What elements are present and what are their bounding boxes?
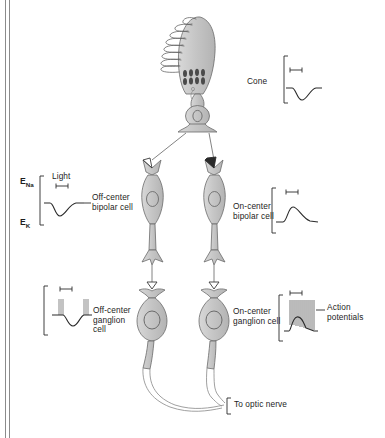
off-ganglion-spike-burst-post (84, 299, 88, 315)
off-ganglion-trace-bracket (44, 286, 48, 335)
on-bipolar-depolarization-trace (276, 207, 318, 222)
on-ganglion-depolarization-trace (284, 317, 318, 331)
off-ganglion-scalebar (60, 287, 72, 292)
cone-trace-bracket (284, 56, 288, 103)
bipolar-to-ganglion-arrows (152, 265, 214, 282)
cone-hyperpolarization-trace (286, 88, 322, 100)
off-bipolar-hyperpolarization-trace (44, 203, 84, 216)
on-center-ganglion-cell (199, 282, 229, 369)
off-bipolar-cell-label: Off-center bipolar cell (92, 193, 133, 212)
on-ganglion-action-potentials (290, 300, 314, 330)
off-bipolar-trace-panel (40, 176, 84, 225)
optic-nerve-axons (143, 368, 225, 411)
on-ganglion-open-arrowhead (209, 282, 219, 289)
e-na-subscript: Na (26, 181, 34, 188)
retina-circuit-figure: Cone Off-center bipolar cell On-center b… (0, 0, 385, 438)
optic-nerve-label: To optic nerve (234, 400, 287, 410)
off-ganglion-axon-proximal (143, 341, 154, 369)
on-ganglion-cell-label: On-center ganglion cell (233, 307, 280, 326)
on-center-bipolar-cell (204, 157, 226, 265)
off-ganglion-cell-label: Off-center ganglion cell (93, 306, 131, 335)
e-k-label: EK (20, 217, 30, 229)
cone-to-bipolar-connections (152, 133, 214, 160)
e-na-label: ENa (20, 176, 34, 188)
e-k-subscript: K (26, 222, 30, 229)
off-center-bipolar-cell (142, 158, 164, 265)
diagram-canvas (0, 0, 385, 438)
off-bipolar-terminal (142, 250, 163, 265)
on-bipolar-trace-panel (272, 188, 318, 233)
off-center-ganglion-cell (137, 282, 167, 369)
on-bipolar-cell-label: On-center bipolar cell (233, 202, 274, 221)
cone-trace-scalebar (290, 68, 302, 73)
off-ganglion-open-arrowhead (147, 282, 157, 289)
off-ganglion-spike-burst-pre (59, 299, 63, 315)
optic-nerve-bracket (227, 398, 231, 414)
on-ganglion-axon-proximal (207, 341, 216, 369)
cone-photoreceptor (161, 17, 217, 132)
light-stimulus-bar (56, 184, 68, 189)
on-ganglion-scalebar (290, 291, 302, 296)
on-bipolar-terminal (204, 250, 225, 265)
off-bipolar-trace-bracket (40, 176, 44, 225)
cone-trace-panel (284, 56, 322, 103)
light-stimulus-label: Light (52, 172, 71, 182)
action-potentials-label: Action potentials (327, 303, 364, 322)
cone-label: Cone (247, 77, 267, 87)
on-bipolar-scalebar (286, 190, 298, 195)
off-ganglion-hyperpolarization-trace (52, 315, 92, 326)
on-ganglion-trace-panel (279, 291, 325, 342)
off-ganglion-trace-panel (44, 286, 92, 335)
cone-nucleus-region (186, 106, 210, 127)
cone-pedicle (178, 124, 217, 132)
